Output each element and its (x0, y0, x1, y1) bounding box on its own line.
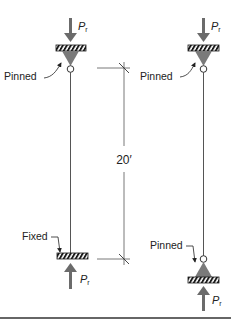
right-top-plate (188, 45, 219, 51)
left-bottom-fixed-plate (57, 253, 88, 259)
right-top-load-label: Pr (211, 20, 221, 33)
right-bottom-load-label: Pr (212, 294, 222, 307)
left-top-leader (44, 63, 61, 78)
right-top-pin-support (195, 51, 212, 66)
left-top-support-label: Pinned (4, 70, 37, 82)
right-top-hinge (200, 66, 207, 73)
left-top-load-arrow (64, 18, 77, 42)
left-bottom-leader (51, 237, 60, 252)
right-bottom-hinge (200, 256, 207, 263)
right-bottom-support-label: Pinned (150, 239, 183, 251)
length-dimension: 20′ (97, 62, 133, 265)
left-bottom-load-arrow (64, 263, 77, 289)
right-top-support-label: Pinned (140, 70, 173, 82)
left-top-pin-support (62, 51, 79, 66)
right-top-leader (180, 63, 195, 77)
left-bottom-support-label: Fixed (22, 230, 48, 242)
right-column: Pr Pinned Pinned Pr (140, 18, 222, 311)
right-bottom-plate (188, 277, 219, 283)
right-bottom-load-arrow (197, 286, 210, 311)
left-top-plate (56, 45, 86, 51)
right-top-load-arrow (197, 18, 210, 42)
left-top-hinge (67, 66, 74, 73)
dimension-label: 20′ (116, 153, 132, 167)
right-bottom-leader (186, 246, 195, 262)
column-diagram: Pr Pinned Fixed Pr 20′ (0, 0, 231, 322)
left-bottom-load-label: Pr (80, 273, 90, 286)
left-column: Pr Pinned Fixed Pr (4, 18, 90, 289)
right-bottom-pin-support (195, 262, 212, 277)
left-top-load-label: Pr (78, 20, 88, 33)
